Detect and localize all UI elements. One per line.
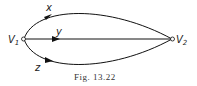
edge-z-label: z [34, 62, 41, 73]
edge-x-label: x [45, 2, 52, 13]
diagram-figure: V1 V2 x y z Fig. 13.22 [0, 0, 197, 86]
vertex-v1-label: V1 [8, 34, 19, 47]
edge-y-label: y [55, 26, 63, 37]
vertex-v2 [171, 37, 175, 41]
vertex-v1 [22, 37, 26, 41]
graph-canvas: V1 V2 x y z Fig. 13.22 [0, 0, 197, 86]
vertex-v2-label: V2 [176, 34, 188, 47]
figure-caption: Fig. 13.22 [74, 72, 116, 82]
edge-z-arrow-icon [45, 57, 53, 63]
